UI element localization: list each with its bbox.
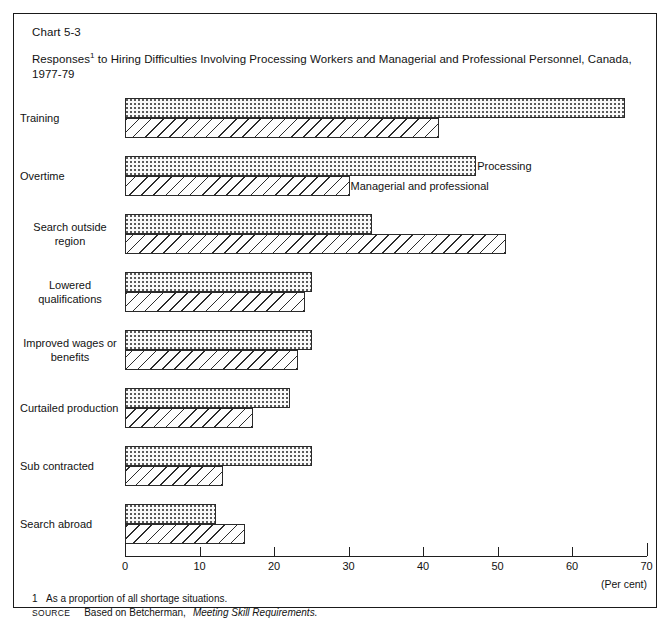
footnote-marker: 1 (32, 592, 46, 606)
category-label: Sub contracted (20, 460, 124, 474)
axis-unit-label: (Per cent) (601, 578, 647, 590)
legend-label-managerial: Managerial and professional (351, 180, 489, 192)
axis-tick-label: 10 (193, 560, 205, 572)
chart-frame: Chart 5-3 Responses1 to Hiring Difficult… (13, 13, 657, 608)
source-word: Source (32, 608, 70, 618)
bar-managerial (125, 350, 298, 370)
legend-label-processing: Processing (477, 160, 531, 172)
axis-tick (423, 547, 424, 556)
axis-tick-label: 30 (342, 560, 354, 572)
axis-tick-label: 50 (491, 560, 503, 572)
bar-managerial (125, 466, 223, 486)
axis-tick (200, 547, 201, 556)
axis-tick (647, 543, 648, 556)
page-title: Responses1 to Hiring Difficulties Involv… (32, 48, 632, 83)
axis-line (125, 556, 647, 557)
bar-processing (125, 388, 290, 408)
bar-processing (125, 504, 216, 524)
bar-processing (125, 272, 312, 292)
axis-tick (572, 547, 573, 556)
source-text: Based on Betcherman, (84, 607, 186, 618)
category-label: Improved wages or benefits (16, 337, 124, 364)
axis-tick-label: 40 (417, 560, 429, 572)
axis-tick (125, 543, 126, 556)
category-label: Lowered qualifications (16, 279, 124, 306)
category-label: Search abroad (20, 518, 124, 532)
source-row: SourceBased on Betcherman,Meeting Skill … (32, 606, 317, 621)
axis-tick-label: 60 (566, 560, 578, 572)
bar-processing (125, 98, 625, 118)
footnote-text: As a proportion of all shortage situatio… (46, 593, 227, 604)
axis-tick (498, 547, 499, 556)
bar-processing (125, 446, 312, 466)
category-label: Overtime (20, 170, 124, 184)
axis-tick-label: 70 (640, 560, 652, 572)
bar-managerial (125, 408, 253, 428)
axis-tick (274, 547, 275, 556)
category-label: Search outside region (16, 221, 124, 248)
chart-notes: 1As a proportion of all shortage situati… (32, 592, 317, 620)
plot-area: TrainingOvertimeSearch outside regionLow… (14, 86, 658, 556)
bar-processing (125, 214, 372, 234)
bar-processing (125, 330, 312, 350)
chart-number: Chart 5-3 (32, 26, 81, 38)
bar-managerial (125, 176, 350, 196)
bar-managerial (125, 118, 439, 138)
axis-tick (349, 547, 350, 556)
axis-tick-label: 0 (122, 560, 128, 572)
bar-processing (125, 156, 476, 176)
category-label: Curtailed production (20, 402, 124, 416)
footnote-row: 1As a proportion of all shortage situati… (32, 592, 317, 606)
bar-managerial (125, 234, 506, 254)
bar-managerial (125, 292, 305, 312)
source-title: Meeting Skill Requirements. (193, 607, 318, 618)
axis-tick-label: 20 (268, 560, 280, 572)
x-axis: (Per cent) 010203040506070 (14, 556, 658, 596)
category-label: Training (20, 112, 124, 126)
title-text-pre: Responses (32, 53, 90, 65)
bar-managerial (125, 524, 245, 544)
title-text-post: to Hiring Difficulties Involving Process… (94, 53, 584, 65)
